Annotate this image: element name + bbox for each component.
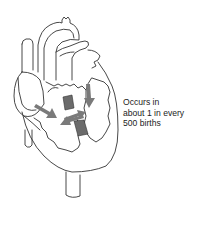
pulmonary-artery — [56, 41, 89, 80]
right-ventricle-wall — [34, 116, 80, 152]
valves — [46, 82, 86, 90]
caption-line-2: about 1 in every — [123, 108, 184, 119]
left-atrium — [88, 50, 100, 68]
septum-upper — [63, 95, 74, 110]
caption-line-1: Occurs in — [123, 97, 184, 108]
arrow-right-atrium — [34, 104, 57, 118]
superior-vena-cava — [22, 39, 33, 72]
lower-vessel — [66, 172, 80, 197]
caption: Occurs in about 1 in every 500 births — [123, 97, 184, 129]
caption-line-3: 500 births — [123, 118, 184, 129]
septum-lower — [74, 120, 88, 136]
